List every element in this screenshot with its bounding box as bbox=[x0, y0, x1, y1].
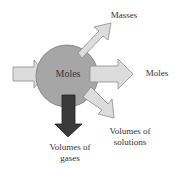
moles-output-label: Moles bbox=[140, 68, 174, 78]
masses-label: Masses bbox=[104, 10, 144, 20]
masses-arrow bbox=[78, 23, 111, 58]
gases-label-line2: gases bbox=[42, 153, 98, 163]
gases-label-line1: Volumes of bbox=[42, 142, 98, 152]
solutions-arrow bbox=[83, 87, 114, 118]
solutions-label-line2: solutions bbox=[102, 137, 158, 147]
solutions-label-line1: Volumes of bbox=[102, 126, 158, 136]
center-label: Moles bbox=[50, 69, 86, 79]
